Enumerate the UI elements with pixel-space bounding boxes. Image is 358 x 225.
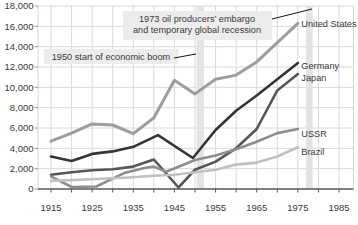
x-tick-label: 1915 <box>40 202 61 213</box>
x-tick-label: 1955 <box>205 202 226 213</box>
x-tick-label: 1975 <box>287 202 308 213</box>
series-label-brazil: Brazil <box>301 147 324 157</box>
y-tick-label: 14,000 <box>4 41 33 52</box>
x-tick-label: 1965 <box>246 202 267 213</box>
y-tick-label: 2,000 <box>10 163 34 174</box>
annotation-text-embargo-1973: and temporary global recession <box>133 25 261 35</box>
chart-screenshot: 1915192519351945195519651975198502,0004,… <box>0 0 358 225</box>
annotation-leader-embargo-1973 <box>272 9 312 19</box>
x-tick-label: 1925 <box>82 202 103 213</box>
annotation-text-embargo-1973: 1973 oil producers’ embargo <box>139 14 255 24</box>
y-tick-label: 18,000 <box>4 0 33 11</box>
y-tick-label: 10,000 <box>4 82 33 93</box>
gdp-line-chart: 1915192519351945195519651975198502,0004,… <box>0 0 358 225</box>
x-tick-label: 1985 <box>328 202 349 213</box>
embargo-1973-band <box>306 6 313 189</box>
y-tick-label: 16,000 <box>4 21 33 32</box>
series-label-japan: Japan <box>301 73 326 83</box>
annotation-text-boom-1950: 1950 start of economic boom <box>52 52 171 62</box>
y-tick-label: 0 <box>28 183 33 194</box>
series-label-united-states: United States <box>301 19 357 29</box>
y-tick-label: 6,000 <box>10 122 34 133</box>
y-tick-label: 12,000 <box>4 61 33 72</box>
series-label-ussr: USSR <box>301 129 327 139</box>
x-tick-label: 1935 <box>123 202 144 213</box>
y-tick-label: 4,000 <box>10 143 34 154</box>
y-tick-label: 8,000 <box>10 102 34 113</box>
series-label-germany: Germany <box>301 61 339 71</box>
x-tick-label: 1945 <box>164 202 185 213</box>
